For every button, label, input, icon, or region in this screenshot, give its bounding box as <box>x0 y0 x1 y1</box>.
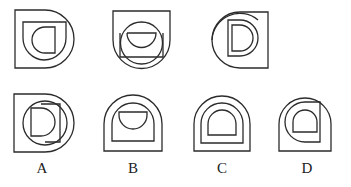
question-figure-3 <box>212 12 268 68</box>
question-figure-2 <box>113 11 170 69</box>
option-c-label[interactable]: C <box>217 160 227 177</box>
question-figure-1 <box>15 10 74 68</box>
option-d-label[interactable]: D <box>302 160 313 177</box>
option-b-label[interactable]: B <box>128 160 138 177</box>
option-c-figure[interactable] <box>194 96 250 151</box>
option-a-figure[interactable] <box>14 94 74 152</box>
option-d-figure[interactable] <box>279 98 331 151</box>
option-b-figure[interactable] <box>104 95 162 151</box>
option-a-label[interactable]: A <box>37 160 48 177</box>
puzzle-figure <box>0 0 351 187</box>
